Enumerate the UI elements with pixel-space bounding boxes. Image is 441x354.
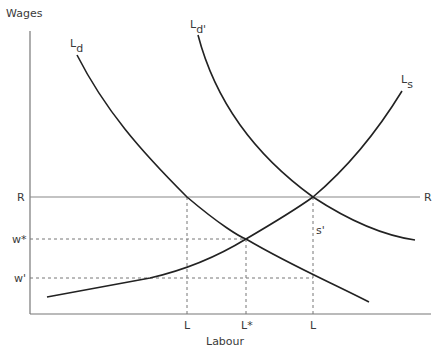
labour-market-diagram (0, 0, 441, 354)
ld-label-sub: d (76, 42, 83, 55)
ld-prime-label-sub: d' (196, 23, 206, 36)
y-axis-label: Wages (6, 8, 42, 19)
x-axis-label: Labour (206, 336, 244, 347)
ld-label: Ld (70, 38, 83, 54)
ls-curve (47, 91, 402, 297)
dashed-guides (30, 197, 313, 314)
x-tick-l2: L (310, 320, 316, 331)
ld-prime-label: Ld' (190, 19, 206, 35)
y-tick-w-prime: w' (14, 273, 26, 284)
x-tick-l-star: L* (241, 320, 253, 331)
x-tick-l1: L (184, 320, 190, 331)
s-prime-label: s' (316, 225, 325, 236)
r-line-label: R (424, 192, 432, 203)
ld-curve (77, 55, 369, 302)
ld-prime-curve (198, 35, 415, 240)
y-tick-r: R (17, 192, 25, 203)
ls-label: Ls (401, 74, 413, 90)
ls-label-sub: s (407, 78, 413, 91)
y-tick-w-star: w* (12, 234, 27, 245)
